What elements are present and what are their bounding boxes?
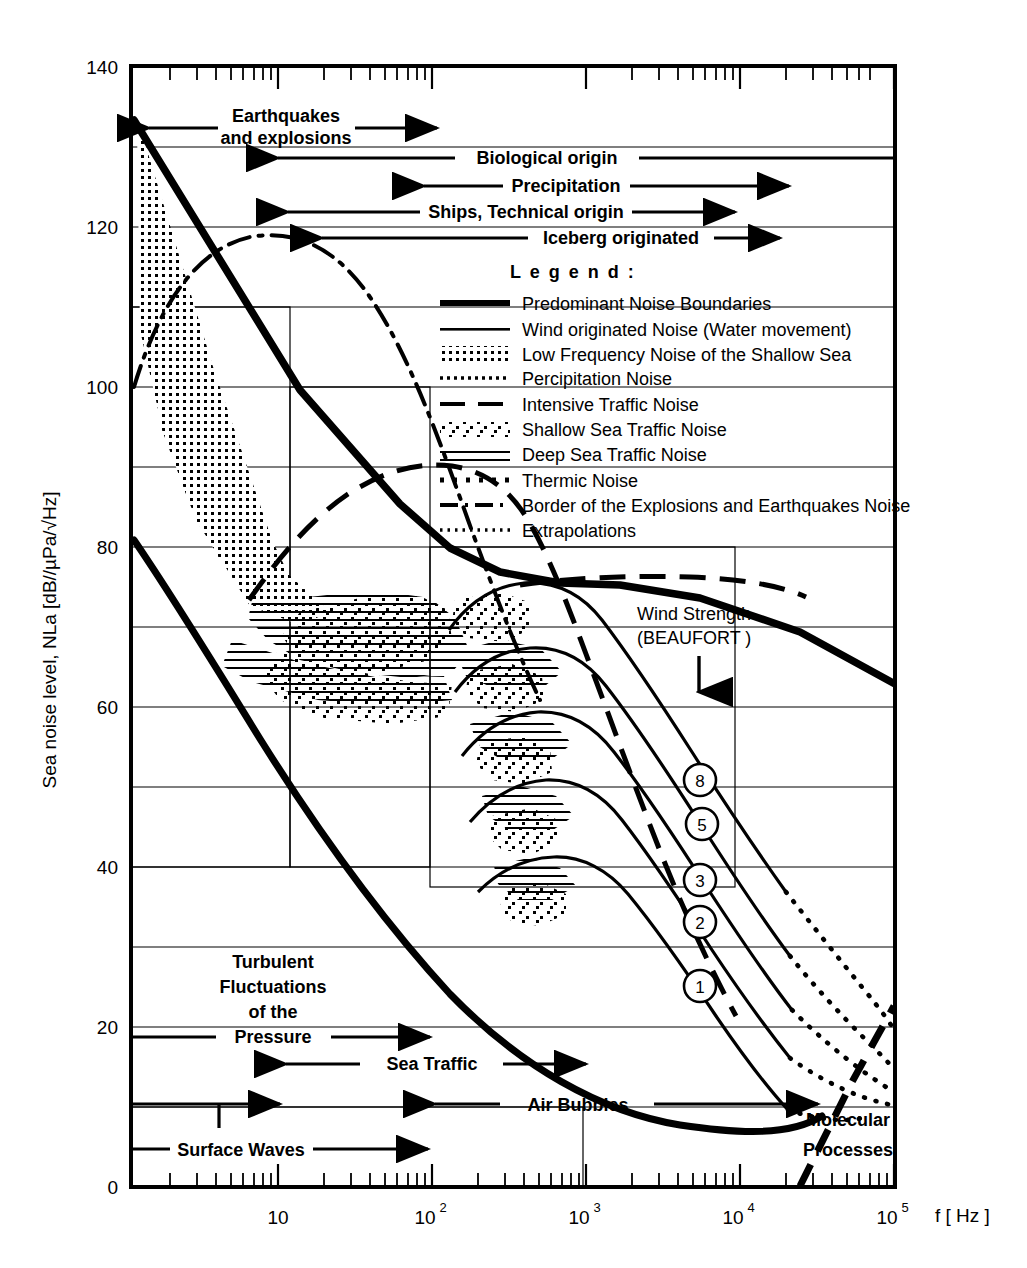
legend-swatch-thick-solid [440, 300, 510, 306]
svg-text:10: 10 [722, 1207, 743, 1228]
label-sea-traffic: Sea Traffic [386, 1054, 477, 1074]
y-tick-80: 80 [97, 537, 118, 558]
legend-label-9: Extrapolations [522, 521, 636, 541]
legend-swatch-thin-solid [440, 328, 510, 331]
label-precipitation: Precipitation [511, 176, 620, 196]
x-axis-title: f [ Hz ] [935, 1205, 990, 1226]
svg-text:4: 4 [747, 1200, 754, 1215]
label-biological-origin: Biological origin [476, 148, 617, 168]
wind-strength-line1: Wind Strength [637, 604, 751, 624]
x-tick-10: 10 [267, 1207, 288, 1228]
legend-label-8: Border of the Explosions and Earthquakes… [522, 496, 910, 516]
label-ships-technical-origin: Ships, Technical origin [428, 202, 624, 222]
legend-item-shallow-sea-traffic-noise: Shallow Sea Traffic Noise [440, 420, 727, 440]
label-turbulent-l3: of the [249, 1002, 298, 1022]
legend-label-3: Percipitation Noise [522, 369, 672, 389]
svg-text:10: 10 [414, 1207, 435, 1228]
label-air-bubbles: Air Bubbles [527, 1095, 628, 1115]
svg-text:5: 5 [697, 816, 706, 835]
legend-item-deep-sea-traffic-noise: Deep Sea Traffic Noise [440, 445, 707, 465]
legend-label-7: Thermic Noise [522, 471, 638, 491]
figure-canvas: 0 20 40 60 80 100 120 140 Sea noise leve… [0, 0, 1027, 1268]
svg-text:10: 10 [568, 1207, 589, 1228]
legend-item-low-frequency-noise-shallow-sea: Low Frequency Noise of the Shallow Sea [440, 345, 852, 365]
legend-label-2: Low Frequency Noise of the Shallow Sea [522, 345, 852, 365]
y-tick-60: 60 [97, 697, 118, 718]
y-axis-title: Sea noise level, NLa [dB//µPa/√Hz] [39, 491, 60, 788]
legend-label-6: Deep Sea Traffic Noise [522, 445, 707, 465]
y-tick-100: 100 [86, 377, 118, 398]
legend-swatch-hlines [440, 447, 510, 463]
beaufort-marker-5: 5 [686, 808, 718, 840]
label-surface-waves: Surface Waves [177, 1140, 304, 1160]
y-tick-140: 140 [86, 57, 118, 78]
svg-text:8: 8 [695, 772, 704, 791]
y-tick-0: 0 [107, 1177, 118, 1198]
label-iceberg-originated: Iceberg originated [543, 228, 699, 248]
svg-text:2: 2 [439, 1200, 446, 1215]
y-tick-40: 40 [97, 857, 118, 878]
label-earthquakes-l2: and explosions [220, 128, 351, 148]
y-tick-120: 120 [86, 217, 118, 238]
legend-label-0: Predominant Noise Boundaries [522, 294, 771, 314]
svg-text:5: 5 [901, 1200, 908, 1215]
wind-strength-line2: (BEAUFORT ) [637, 628, 751, 648]
beaufort-marker-1: 1 [684, 970, 716, 1002]
label-turbulent-l2: Fluctuations [220, 977, 327, 997]
beaufort-marker-8: 8 [684, 764, 716, 796]
legend-swatch-dot-grid [440, 346, 510, 362]
legend-label-1: Wind originated Noise (Water movement) [522, 320, 851, 340]
legend-label-4: Intensive Traffic Noise [522, 395, 699, 415]
label-turbulent-l1: Turbulent [232, 952, 314, 972]
svg-text:1: 1 [695, 978, 704, 997]
label-molecular-l2: Processes [803, 1140, 893, 1160]
noise-spectrum-svg: 0 20 40 60 80 100 120 140 Sea noise leve… [0, 0, 1027, 1268]
legend-swatch-speckle [440, 422, 510, 437]
y-tick-20: 20 [97, 1017, 118, 1038]
label-turbulent-l4: Pressure [234, 1027, 311, 1047]
legend-title: L e g e n d : [510, 262, 636, 282]
svg-text:3: 3 [593, 1200, 600, 1215]
svg-text:3: 3 [695, 872, 704, 891]
label-molecular-l1: Molecular [806, 1110, 890, 1130]
svg-text:10: 10 [876, 1207, 897, 1228]
beaufort-marker-2: 2 [684, 906, 716, 938]
svg-text:2: 2 [695, 914, 704, 933]
label-earthquakes-l1: Earthquakes [232, 106, 340, 126]
legend-label-5: Shallow Sea Traffic Noise [522, 420, 727, 440]
beaufort-marker-3: 3 [684, 864, 716, 896]
